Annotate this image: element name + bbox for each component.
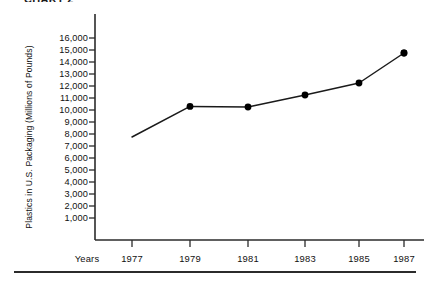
x-tick-label-1985: 1985: [337, 253, 381, 264]
x-axis-title: Years: [64, 253, 110, 264]
bottom-divider: [14, 271, 416, 273]
plot-canvas: [0, 0, 430, 282]
data-point-1983: [356, 80, 363, 87]
y-axis-ticks: [89, 38, 95, 218]
x-tick-label-1983: 1983: [283, 253, 327, 264]
line-chart: Plastics in U.S. Packaging (Millions of …: [0, 0, 430, 282]
x-tick-label-1977: 1977: [110, 253, 154, 264]
data-point-1977: [187, 103, 194, 110]
x-tick-label-1987: 1987: [382, 253, 426, 264]
data-point-markers: [187, 50, 408, 111]
data-point-1981: [302, 92, 309, 99]
x-axis-ticks: [132, 240, 404, 247]
data-point-1979: [245, 104, 252, 111]
data-line-series: [132, 53, 404, 137]
data-point-1987: [401, 50, 408, 57]
x-tick-label-1979: 1979: [168, 253, 212, 264]
x-tick-label-1981: 1981: [226, 253, 270, 264]
